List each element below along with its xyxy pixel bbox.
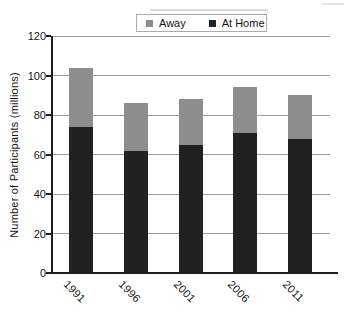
legend-label-at-home: At Home <box>222 17 265 29</box>
y-tick-40 <box>46 193 51 195</box>
legend-label-away: Away <box>159 17 186 29</box>
y-tick-100 <box>46 75 51 77</box>
gridline-100 <box>52 75 330 76</box>
y-tick-label-0: 0 <box>0 267 46 279</box>
y-tick-label-60: 60 <box>0 149 46 161</box>
at-home-swatch-icon <box>209 20 216 27</box>
y-tick-20 <box>46 233 51 235</box>
bar-at-home-1996 <box>124 151 148 273</box>
bar-away-1991 <box>69 68 93 127</box>
bar-away-2006 <box>233 87 257 132</box>
legend-item-away: Away <box>146 17 186 29</box>
y-tick-0 <box>46 272 51 274</box>
y-tick-label-120: 120 <box>0 30 46 42</box>
x-tick-label-2001: 2001 <box>171 278 198 305</box>
scan-artifact-line-2 <box>322 3 344 5</box>
x-tick-label-2006: 2006 <box>226 278 253 305</box>
bar-at-home-2006 <box>233 133 257 273</box>
x-axis-line <box>51 272 338 274</box>
bar-at-home-2001 <box>179 145 203 273</box>
y-tick-label-20: 20 <box>0 228 46 240</box>
y-tick-60 <box>46 154 51 156</box>
scan-artifact-line <box>150 9 268 11</box>
y-tick-label-100: 100 <box>0 70 46 82</box>
legend-item-at-home: At Home <box>209 17 265 29</box>
bar-at-home-1991 <box>69 127 93 273</box>
y-tick-80 <box>46 114 51 116</box>
bar-away-2001 <box>179 99 203 144</box>
y-axis-line <box>51 36 53 274</box>
y-tick-120 <box>46 35 51 37</box>
bar-away-1996 <box>124 103 148 150</box>
x-tick-label-2011: 2011 <box>281 278 307 304</box>
legend: Away At Home <box>136 14 267 32</box>
y-tick-label-40: 40 <box>0 188 46 200</box>
away-swatch-icon <box>146 20 153 27</box>
bar-away-2011 <box>288 95 312 138</box>
stacked-bar-chart: Away At Home Number of Participants (mil… <box>0 0 344 317</box>
x-tick-label-1996: 1996 <box>116 278 143 305</box>
gridline-120 <box>52 36 330 37</box>
y-tick-label-80: 80 <box>0 109 46 121</box>
x-tick-label-1991: 1991 <box>62 278 89 305</box>
bar-at-home-2011 <box>288 139 312 273</box>
